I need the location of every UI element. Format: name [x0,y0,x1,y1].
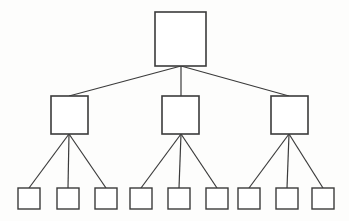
tree-diagram [0,0,349,221]
root-node[interactable] [155,12,206,66]
leaf-node[interactable] [206,188,228,209]
node-box[interactable] [312,188,334,209]
node-box[interactable] [57,188,79,209]
leaf-node[interactable] [238,188,260,209]
tree-edge [179,134,181,188]
tree-edge [29,134,69,188]
branch-node[interactable] [51,96,88,134]
tree-edge [289,134,323,188]
node-box[interactable] [51,96,88,134]
tree-edge [141,134,181,188]
tree-edge [181,134,217,188]
leaf-node[interactable] [95,188,117,209]
leaf-node[interactable] [130,188,152,209]
node-box[interactable] [162,96,199,134]
node-box[interactable] [276,188,298,209]
branch-node[interactable] [271,96,308,134]
node-box[interactable] [206,188,228,209]
tree-diagram-canvas [0,0,349,221]
tree-edge [69,66,181,96]
nodes-layer [18,12,334,209]
leaf-node[interactable] [276,188,298,209]
node-box[interactable] [238,188,260,209]
node-box[interactable] [18,188,40,209]
node-box[interactable] [155,12,206,66]
leaf-node[interactable] [57,188,79,209]
leaf-node[interactable] [168,188,190,209]
node-box[interactable] [130,188,152,209]
tree-edge [181,66,289,96]
node-box[interactable] [95,188,117,209]
tree-edge [249,134,289,188]
tree-edge [68,134,69,188]
branch-node[interactable] [162,96,199,134]
node-box[interactable] [271,96,308,134]
tree-edge [69,134,106,188]
leaf-node[interactable] [18,188,40,209]
node-box[interactable] [168,188,190,209]
leaf-node[interactable] [312,188,334,209]
tree-edge [287,134,289,188]
